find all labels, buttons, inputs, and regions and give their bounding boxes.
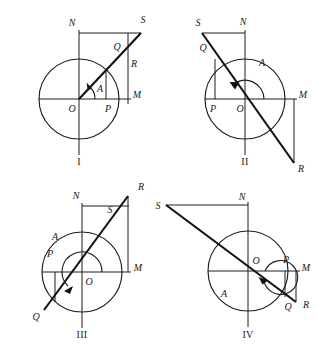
point-label-R-IV: R	[302, 299, 309, 310]
point-label-M-III: M	[133, 262, 143, 273]
panel-II: S N Q A M P O R	[196, 16, 308, 174]
point-label-M-IV: M	[301, 262, 311, 273]
point-label-O-III: O	[85, 276, 92, 287]
terminal-ray-IV	[166, 205, 296, 302]
panel-III: R N S A P M O Q	[32, 181, 144, 328]
point-label-M-II: M	[298, 89, 308, 100]
point-label-Q-IV: Q	[284, 301, 292, 312]
point-label-R-II: R	[297, 163, 304, 174]
point-label-M-I: M	[132, 89, 142, 100]
point-label-S-II: S	[196, 17, 201, 28]
angle-arrow-III	[64, 286, 73, 294]
point-label-R-I: R	[130, 58, 137, 69]
point-label-Q-III: Q	[32, 311, 40, 322]
angle-label-A-I: A	[96, 83, 104, 94]
point-label-P-IV: P	[282, 254, 289, 265]
panel-IV: S N O P M A Q R	[156, 191, 311, 327]
point-label-P-II: P	[209, 103, 216, 114]
point-label-N-I: N	[68, 17, 77, 28]
panel-number-IV: IV	[242, 329, 254, 340]
angle-label-A-III: A	[51, 231, 59, 242]
point-label-Q-I: Q	[113, 41, 121, 52]
point-label-P-III: P	[46, 248, 53, 259]
panel-number-II: II	[241, 156, 248, 167]
point-label-R-III: R	[137, 181, 144, 192]
angle-label-A-IV: A	[220, 288, 228, 299]
point-label-O-II: O	[236, 103, 243, 114]
trig-circle-figure: N S Q R M P O A S N Q	[0, 0, 335, 355]
point-label-N-II: N	[239, 16, 248, 27]
angle-arrow-II	[230, 82, 240, 90]
terminal-ray-III	[44, 196, 128, 310]
point-label-S-I: S	[141, 14, 146, 25]
terminal-ray-II	[202, 33, 294, 163]
angle-label-A-II: A	[258, 57, 266, 68]
diagram-canvas: N S Q R M P O A S N Q	[0, 0, 335, 355]
point-label-S-IV: S	[156, 200, 161, 211]
point-label-Q-II: Q	[199, 42, 207, 53]
point-label-O-I: O	[68, 103, 75, 114]
point-label-O-IV: O	[252, 255, 259, 266]
point-label-N-IV: N	[238, 191, 247, 202]
point-label-N-III: N	[72, 190, 81, 201]
panel-number-III: III	[77, 329, 88, 340]
point-label-P-I: P	[104, 103, 111, 114]
panel-I: N S Q R M P O A	[39, 14, 146, 155]
point-label-S-III: S	[108, 204, 113, 215]
panel-number-I: I	[77, 156, 81, 167]
